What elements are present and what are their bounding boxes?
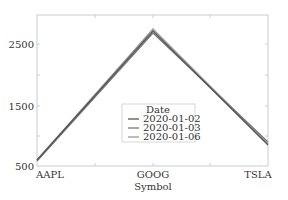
- x-tick-label: AAPL: [35, 169, 64, 180]
- y-tick-label: 2500: [9, 39, 34, 50]
- line-chart: 2500 1500 500 AAPL GOOG TSLA Symbol Date…: [0, 0, 288, 200]
- legend: Date 2020-01-02 2020-01-03 2020-01-06: [122, 104, 201, 142]
- x-tick-label: GOOG: [137, 169, 169, 180]
- chart-svg: 2500 1500 500 AAPL GOOG TSLA Symbol Date…: [0, 0, 288, 200]
- y-tick-label: 500: [15, 161, 34, 172]
- plot-area: [37, 15, 268, 166]
- legend-item-label: 2020-01-06: [143, 131, 201, 142]
- x-axis-label: Symbol: [134, 181, 172, 192]
- y-tick-label: 1500: [9, 101, 34, 112]
- x-tick-label: TSLA: [244, 169, 272, 180]
